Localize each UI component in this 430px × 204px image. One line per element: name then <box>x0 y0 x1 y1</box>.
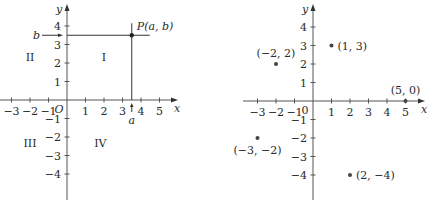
x-tick-label: −2 <box>268 106 284 119</box>
y-tick-label: 1 <box>300 77 307 90</box>
point-p <box>130 33 134 37</box>
x-tick-label: 1 <box>328 106 335 119</box>
y-tick-label: −4 <box>45 168 61 181</box>
y-axis-arrow-icon <box>65 4 70 11</box>
data-point-label: (−2, 2) <box>257 47 296 60</box>
quadrant-label: IV <box>94 137 107 150</box>
x-tick-label: 4 <box>138 105 145 118</box>
left-coordinate-plane: xy−3−2−112345−4−3−2−11234OIIIIIIIVP(a, b… <box>0 3 181 200</box>
x-tick-label: −3 <box>249 106 265 119</box>
y-tick-label: 3 <box>54 39 61 52</box>
y-tick-label: −4 <box>291 169 307 182</box>
y-tick-label: −2 <box>45 131 61 144</box>
y-axis-label: y <box>55 3 63 16</box>
x-tick-label: 3 <box>119 105 126 118</box>
x-tick-label: 5 <box>402 106 409 119</box>
right-coordinate-plane: xy−3−2−112345−4−3−2−112340(1, 3)(−2, 2)(… <box>233 3 428 200</box>
x-tick-label: 2 <box>101 105 108 118</box>
data-point <box>404 99 408 103</box>
x-tick-label: −3 <box>3 105 19 118</box>
x-tick-label: −2 <box>22 105 38 118</box>
data-point <box>348 173 352 177</box>
x-axis-label: x <box>174 102 181 115</box>
data-point-label: (2, −4) <box>356 169 395 182</box>
y-tick-label: 2 <box>54 57 61 70</box>
coordinate-diagrams: xy−3−2−112345−4−3−2−11234OIIIIIIIVP(a, b… <box>0 0 430 204</box>
x-tick-label: 3 <box>365 106 372 119</box>
origin-label: O <box>54 103 63 116</box>
data-point-label: (1, 3) <box>338 40 368 53</box>
data-point <box>274 62 278 66</box>
data-point-label: (5, 0) <box>391 84 421 97</box>
y-tick-label: 4 <box>54 20 61 33</box>
a-label: a <box>128 114 135 127</box>
x-tick-label: 1 <box>82 105 89 118</box>
y-tick-label: 4 <box>300 21 307 34</box>
y-axis-label: y <box>301 3 309 16</box>
a-arrow-icon <box>130 103 134 107</box>
data-point-label: (−3, −2) <box>233 144 281 157</box>
y-tick-label: 2 <box>300 58 307 71</box>
x-axis-label: x <box>421 103 428 116</box>
quadrant-label: I <box>102 51 106 64</box>
y-tick-label: −2 <box>291 132 307 145</box>
x-tick-label: 2 <box>347 106 354 119</box>
b-arrow-icon <box>58 33 63 37</box>
y-tick-label: 3 <box>300 40 307 53</box>
y-tick-label: 1 <box>54 76 61 89</box>
quadrant-label: III <box>23 137 36 150</box>
data-point <box>256 136 260 140</box>
b-label: b <box>33 29 40 42</box>
data-point <box>330 44 334 48</box>
x-tick-label: 5 <box>156 105 163 118</box>
y-tick-label: −3 <box>291 151 307 164</box>
quadrant-label: II <box>26 51 35 64</box>
x-tick-label: 4 <box>384 106 391 119</box>
point-p-label: P(a, b) <box>136 20 174 33</box>
y-axis-arrow-icon <box>311 4 316 11</box>
origin-label: 0 <box>302 104 309 117</box>
y-tick-label: −3 <box>45 150 61 163</box>
